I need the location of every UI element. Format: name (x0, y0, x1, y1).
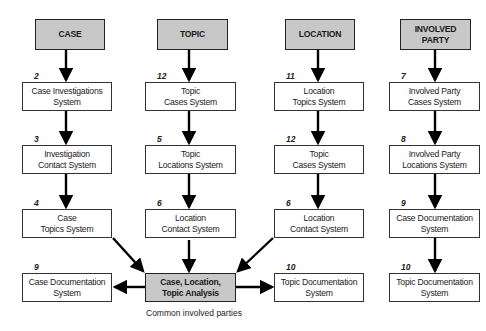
header-location: LOCATION (285, 19, 355, 50)
step-number: 9 (401, 198, 406, 208)
step-number: 2 (34, 71, 39, 81)
step-involved-party-locations: Involved Party Locations System (389, 145, 480, 174)
header-involved-party: INVOLVED PARTY (400, 19, 471, 50)
step-number: 10 (401, 262, 410, 272)
step-topic-documentation: Topic Documentation System (274, 273, 364, 302)
step-case-investigations: Case Investigations System (22, 82, 112, 111)
step-number: 10 (286, 262, 295, 272)
step-number: 12 (157, 71, 166, 81)
step-involved-party-cases: Involved Party Cases System (389, 82, 480, 111)
step-location-topics: Location Topics System (274, 82, 364, 111)
step-case-documentation: Case Documentation System (22, 273, 112, 302)
step-number: 12 (286, 134, 295, 144)
step-number: 4 (34, 198, 39, 208)
step-topic-cases: Topic Cases System (145, 82, 236, 111)
step-number: 6 (286, 198, 291, 208)
step-number: 9 (34, 262, 39, 272)
step-case-topics: Case Topics System (22, 209, 112, 238)
step-number: 5 (157, 134, 162, 144)
step-investigation-contact: Investigation Contact System (22, 145, 112, 174)
header-topic: TOPIC (157, 19, 228, 50)
step-number: 8 (401, 134, 406, 144)
step-number: 11 (286, 71, 295, 81)
step-topic-cases-2: Topic Cases System (274, 145, 364, 174)
step-number: 3 (34, 134, 39, 144)
step-case-documentation-2: Case Documentation System (389, 209, 480, 238)
step-location-contact: Location Contact System (145, 209, 236, 238)
header-case: CASE (35, 19, 105, 50)
step-location-contact-2: Location Contact System (274, 209, 364, 238)
center-caption: Common involved parties (146, 308, 242, 318)
step-number: 6 (157, 198, 162, 208)
step-topic-documentation-2: Topic Documentation System (389, 273, 480, 302)
center-analysis: Case, Location, Topic Analysis (145, 273, 236, 302)
step-number: 7 (401, 71, 406, 81)
step-topic-locations: Topic Locations System (145, 145, 236, 174)
